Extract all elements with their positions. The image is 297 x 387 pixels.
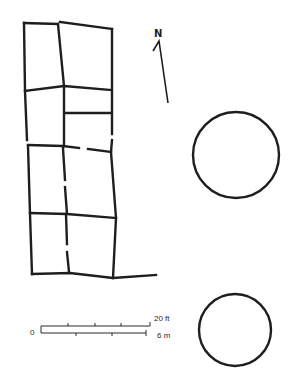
north-label: N xyxy=(154,28,162,39)
middle-wall-row4-a xyxy=(66,214,67,244)
cross-wall-2-a xyxy=(28,145,79,148)
bottom-wall xyxy=(32,273,156,278)
top-wall xyxy=(24,23,58,24)
north-arrow-icon xyxy=(153,41,168,103)
circular-structure-upper xyxy=(193,112,279,198)
cross-wall-1 xyxy=(25,86,111,91)
middle-wall-row3-a xyxy=(63,148,65,180)
scale-metric-label: 6 m xyxy=(157,331,171,340)
scale-imperial-label: 20 ft xyxy=(154,314,170,323)
cross-wall-2-b xyxy=(88,149,111,152)
right-wall-lower xyxy=(111,140,116,278)
scale-bar: 0 20 ft 6 m xyxy=(30,314,171,340)
north-arrow: N xyxy=(153,28,168,103)
left-wall-upper xyxy=(24,23,27,140)
scale-zero-label: 0 xyxy=(30,328,35,337)
middle-wall-row3-b xyxy=(65,187,67,214)
top-wall-right xyxy=(60,22,112,29)
left-wall-lower xyxy=(28,146,32,274)
room-block xyxy=(24,22,156,278)
site-plan-drawing: N 0 20 ft 6 m xyxy=(0,0,297,387)
middle-wall-row4-b xyxy=(67,252,69,272)
cross-wall-3 xyxy=(30,213,116,218)
circular-structure-lower xyxy=(199,294,271,366)
